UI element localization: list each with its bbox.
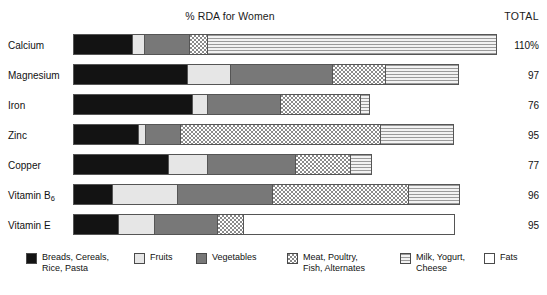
legend-label: Vegetables bbox=[212, 252, 257, 263]
stacked-bar bbox=[73, 34, 497, 55]
stacked-bar bbox=[73, 64, 459, 85]
legend-item-fats[interactable]: Fats bbox=[484, 252, 518, 264]
bar-segment-breads bbox=[74, 95, 193, 114]
row-total-value: 77 bbox=[491, 160, 539, 171]
chart-row: Vitamin B696 bbox=[0, 180, 547, 210]
bar-segment-breads bbox=[74, 35, 133, 54]
bar-segment-milk bbox=[361, 95, 369, 114]
bar-segment-vegetables bbox=[145, 35, 190, 54]
legend-label: Milk, Yogurt, Cheese bbox=[416, 252, 465, 273]
legend-label: Breads, Cereals, Rice, Pasta bbox=[42, 252, 109, 273]
stacked-bar bbox=[73, 94, 370, 115]
legend-swatch-meat-icon bbox=[287, 253, 298, 264]
bar-segment-fats bbox=[244, 215, 454, 234]
bar-segment-fruits bbox=[119, 215, 155, 234]
row-label-subscript: 6 bbox=[51, 194, 55, 203]
legend-label: Fats bbox=[500, 252, 518, 263]
bar-segment-vegetables bbox=[146, 125, 181, 144]
row-total-value: 96 bbox=[491, 190, 539, 201]
row-total-value: 95 bbox=[491, 220, 539, 231]
row-label-text: Magnesium bbox=[8, 70, 60, 81]
legend-item-milk[interactable]: Milk, Yogurt, Cheese bbox=[400, 252, 465, 273]
legend-item-vegetables[interactable]: Vegetables bbox=[196, 252, 257, 264]
row-total-value: 76 bbox=[491, 100, 539, 111]
chart-row: Magnesium97 bbox=[0, 60, 547, 90]
bar-segment-breads bbox=[74, 185, 113, 204]
bar-segment-meat bbox=[218, 215, 244, 234]
row-label-text: Zinc bbox=[8, 130, 27, 141]
chart-title: % RDA for Women bbox=[0, 10, 460, 22]
bar-segment-vegetables bbox=[208, 155, 296, 174]
bar-segment-breads bbox=[74, 125, 139, 144]
bar-segment-milk bbox=[381, 125, 453, 144]
chart-row: Vitamin E95 bbox=[0, 210, 547, 240]
row-total-value: 110% bbox=[491, 40, 539, 51]
bar-segment-meat bbox=[281, 95, 361, 114]
bar-segment-milk bbox=[208, 35, 496, 54]
legend-swatch-milk-icon bbox=[400, 253, 411, 264]
total-column-header: TOTAL bbox=[504, 10, 539, 22]
bar-segment-vegetables bbox=[155, 215, 218, 234]
legend-swatch-fruits-icon bbox=[134, 253, 145, 264]
legend-item-meat[interactable]: Meat, Poultry, Fish, Alternates bbox=[287, 252, 365, 273]
bar-segment-milk bbox=[409, 185, 459, 204]
row-label-calcium: Calcium bbox=[8, 40, 68, 51]
bar-segment-meat bbox=[273, 185, 409, 204]
row-label-copper: Copper bbox=[8, 160, 68, 171]
row-label-text: Calcium bbox=[8, 40, 44, 51]
bar-segment-meat bbox=[190, 35, 208, 54]
bar-segment-breads bbox=[74, 65, 188, 84]
bar-segment-vegetables bbox=[208, 95, 281, 114]
bar-segment-fruits bbox=[113, 185, 178, 204]
bar-segment-vegetables bbox=[231, 65, 333, 84]
legend-item-fruits[interactable]: Fruits bbox=[134, 252, 173, 264]
row-label-magnesium: Magnesium bbox=[8, 70, 68, 81]
legend-item-breads[interactable]: Breads, Cereals, Rice, Pasta bbox=[26, 252, 109, 273]
bar-segment-meat bbox=[333, 65, 386, 84]
row-label-vitamin-b: Vitamin B6 bbox=[8, 190, 68, 201]
bar-segment-milk bbox=[386, 65, 458, 84]
row-label-zinc: Zinc bbox=[8, 130, 68, 141]
stacked-bar bbox=[73, 184, 460, 205]
chart-row: Iron76 bbox=[0, 90, 547, 120]
row-total-value: 95 bbox=[491, 130, 539, 141]
row-label-text: Vitamin B bbox=[8, 190, 51, 201]
bar-segment-meat bbox=[296, 155, 351, 174]
bar-segment-breads bbox=[74, 215, 119, 234]
row-label-text: Copper bbox=[8, 160, 41, 171]
chart-row: Calcium110% bbox=[0, 30, 547, 60]
chart-row: Copper77 bbox=[0, 150, 547, 180]
legend-swatch-breads-icon bbox=[26, 253, 37, 264]
bar-segment-fruits bbox=[188, 65, 231, 84]
row-total-value: 97 bbox=[491, 70, 539, 81]
chart-row: Zinc95 bbox=[0, 120, 547, 150]
bar-segment-fruits bbox=[193, 95, 208, 114]
legend-swatch-vegetables-icon bbox=[196, 253, 207, 264]
stacked-bar-chart: % RDA for Women TOTAL Calcium110%Magnesi… bbox=[0, 0, 547, 295]
bar-segment-fruits bbox=[169, 155, 208, 174]
chart-legend: Breads, Cereals, Rice, PastaFruitsVegeta… bbox=[0, 252, 547, 288]
bar-segment-vegetables bbox=[178, 185, 273, 204]
row-label-text: Vitamin E bbox=[8, 220, 51, 231]
legend-swatch-fats-icon bbox=[484, 253, 495, 264]
stacked-bar bbox=[73, 154, 372, 175]
row-label-iron: Iron bbox=[8, 100, 68, 111]
plot-area: Calcium110%Magnesium97Iron76Zinc95Copper… bbox=[0, 30, 547, 245]
bar-segment-meat bbox=[181, 125, 381, 144]
bar-segment-fruits bbox=[139, 125, 146, 144]
stacked-bar bbox=[73, 124, 454, 145]
legend-label: Meat, Poultry, Fish, Alternates bbox=[303, 252, 365, 273]
bar-segment-breads bbox=[74, 155, 169, 174]
legend-label: Fruits bbox=[150, 252, 173, 263]
bar-segment-fruits bbox=[133, 35, 145, 54]
bar-segment-milk bbox=[351, 155, 371, 174]
row-label-text: Iron bbox=[8, 100, 25, 111]
row-label-vitamin-e: Vitamin E bbox=[8, 220, 68, 231]
stacked-bar bbox=[73, 214, 455, 235]
